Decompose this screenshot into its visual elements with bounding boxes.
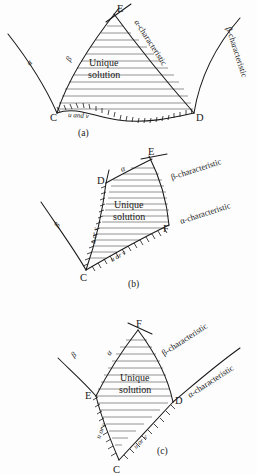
panel-c-u-or-v-label-left: u or v [94, 421, 108, 440]
panel-c-unique-line1: Unique [120, 372, 150, 383]
panel-c: C D E F β α β-characteristic α-character… [0, 296, 257, 474]
panel-a-point-D: D [196, 112, 204, 123]
panel-a-unique-line2: solution [88, 69, 120, 80]
panel-b-arc-EF [149, 156, 169, 225]
panel-c-alpha-curve-right [173, 348, 240, 402]
panel-b-boundary-hatching-CF [92, 228, 167, 271]
panel-a-beta-label: β [63, 55, 73, 64]
panel-a-alpha-characteristic-label: α-characteristic [132, 18, 169, 68]
panel-c-point-D: D [175, 395, 183, 406]
panel-c-unique-line2: solution [119, 384, 151, 395]
panel-c-u-or-v-label-right: u or v [132, 433, 150, 451]
panel-c-point-E: E [85, 390, 91, 401]
panel-c-alpha-characteristic-label: α-characteristic [186, 363, 236, 400]
panel-b-u-or-v-label-left: u or v [89, 226, 100, 244]
panel-c-alpha-label: α [104, 348, 114, 357]
panel-a-point-C: C [50, 112, 57, 123]
panel-a-point-E: E [117, 3, 123, 14]
panel-b-u-or-v-label-lower: u or v [109, 248, 128, 263]
panel-b-characteristic-CD [86, 183, 106, 270]
panel-b-unique-line1: Unique [114, 199, 144, 210]
panel-a-alpha-curve-ED [114, 14, 194, 113]
panel-b: C D E F β α β-characteristic α-character… [0, 140, 257, 295]
panel-b-point-C: C [80, 272, 87, 283]
panel-c-point-C: C [113, 464, 120, 474]
panel-b-caption: (b) [128, 279, 139, 290]
panel-a-caption: (a) [78, 128, 89, 139]
panel-a-alpha-curve-left [8, 34, 57, 113]
panel-a-beta-characteristic-label: β-characteristic [224, 26, 250, 79]
panel-a-unique-line1: Unique [89, 57, 119, 68]
panel-c-point-F: F [136, 318, 142, 329]
panel-b-point-F: F [163, 223, 169, 234]
panel-c-beta-characteristic-label: β-characteristic [160, 321, 210, 358]
panel-b-unique-line2: solution [113, 211, 145, 222]
panel-b-point-D: D [97, 175, 105, 186]
panel-b-beta-curve-left [41, 202, 86, 270]
panel-a-alpha-label: α [24, 58, 34, 67]
panel-b-arc-DE [106, 159, 152, 183]
panel-b-beta-label: β [52, 221, 62, 230]
panel-b-point-E: E [148, 146, 154, 157]
panel-b-boundary-hatching-CD [83, 186, 106, 266]
panel-a-u-and-v-label: u and v [68, 111, 90, 120]
panel-b-alpha-characteristic-label: α-characteristic [179, 200, 232, 226]
panel-b-beta-characteristic-label: β-characteristic [170, 156, 223, 182]
characteristics-figure: C D E α β α-characteristic β-characteris… [0, 0, 257, 474]
panel-c-beta-label: β [68, 350, 78, 360]
panel-c-caption: (c) [157, 446, 168, 457]
panel-a: C D E α β α-characteristic β-characteris… [0, 0, 257, 140]
